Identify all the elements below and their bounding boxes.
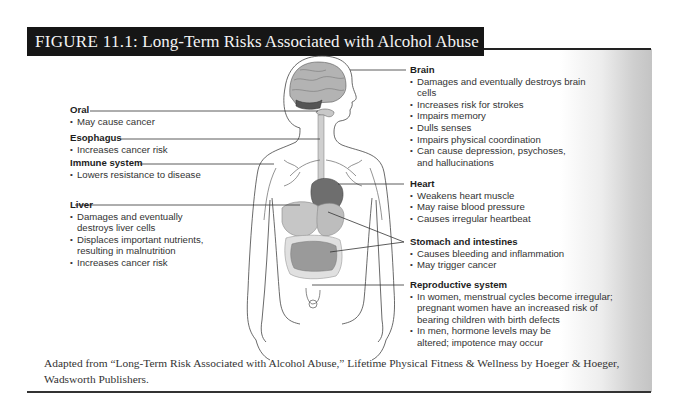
label-heart-item: Weakens heart muscle [410,190,531,202]
label-reproductive-item: In women, menstrual cycles become irregu… [410,291,620,326]
label-brain-item: Damages and eventually destroys brain ce… [410,76,600,99]
label-reproductive-heading: Reproductive system [410,279,620,291]
label-brain-item: Impairs memory [410,110,600,122]
label-immune-heading: Immune system [70,157,201,169]
label-liver: Liver Damages and eventually destroys li… [70,199,220,269]
label-liver-item: Increases cancer risk [70,257,220,269]
label-brain-item: Increases risk for strokes [410,99,600,111]
label-brain-heading: Brain [410,64,600,76]
figure-caption: Adapted from “Long-Term Risk Associated … [44,355,644,387]
label-oral: Oral May cause cancer [70,104,155,127]
label-brain-item: Impairs physical coordination [410,134,600,146]
label-heart-item: Causes irregular heartbeat [410,213,531,225]
label-reproductive: Reproductive system In women, menstrual … [410,279,620,349]
bottom-rule [27,391,651,393]
label-reproductive-item: In men, hormone levels may be altered; i… [410,325,567,348]
label-esophagus-item: Increases cancer risk [70,144,168,156]
label-stomach-heading: Stomach and intestines [410,236,564,248]
label-esophagus: Esophagus Increases cancer risk [70,132,168,155]
label-immune: Immune system Lowers resistance to disea… [70,157,201,180]
label-stomach-item: Causes bleeding and inflammation [410,248,564,260]
label-liver-heading: Liver [70,199,220,211]
label-heart-item: May raise blood pressure [410,201,531,213]
label-brain-item: Can cause depression, psychoses, and hal… [410,145,567,168]
label-immune-item: Lowers resistance to disease [70,169,201,181]
label-oral-item: May cause cancer [70,116,155,128]
label-liver-item: Displaces important nutrients, resulting… [70,234,220,257]
label-oral-heading: Oral [70,104,155,116]
label-brain-item: Dulls senses [410,122,600,134]
label-liver-item: Damages and eventually destroys liver ce… [70,211,220,234]
label-heart-heading: Heart [410,178,531,190]
label-stomach: Stomach and intestines Causes bleeding a… [410,236,564,271]
label-heart: Heart Weakens heart muscle May raise blo… [410,178,531,224]
label-esophagus-heading: Esophagus [70,132,168,144]
label-stomach-item: May trigger cancer [410,259,564,271]
label-brain: Brain Damages and eventually destroys br… [410,64,600,168]
